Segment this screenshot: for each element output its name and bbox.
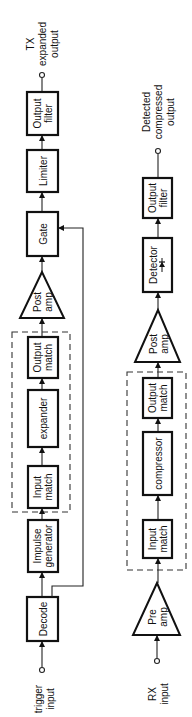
svg-text:Post: Post: [148, 334, 159, 354]
tx-limiter-block: Limiter: [27, 150, 58, 192]
rx-input-match-block: Input match: [143, 520, 172, 558]
svg-text:Output: Output: [32, 342, 43, 372]
svg-text:input: input: [45, 688, 56, 710]
rx-input-terminal: [155, 659, 160, 664]
svg-text:match: match: [43, 344, 54, 371]
tx-chain: TX expanded output Output filter Limiter: [12, 22, 83, 713]
rx-output-filter-block: Output filter: [143, 178, 172, 218]
svg-text:output: output: [49, 30, 60, 58]
svg-text:Pre: Pre: [147, 609, 158, 625]
svg-text:match: match: [158, 525, 169, 552]
svg-text:Detector: Detector: [148, 245, 159, 283]
rx-output-terminal: [156, 149, 161, 154]
svg-text:Input: Input: [32, 476, 43, 498]
rx-pre-amp-triangle: Pre amp: [133, 583, 180, 635]
rx-post-amp-triangle: Post amp: [135, 310, 180, 362]
rx-output-label: Detected compressed output: [141, 85, 176, 139]
rx-compressor-block: compressor: [143, 432, 172, 495]
tx-input-match-block: Input match: [28, 466, 58, 508]
svg-text:trigger: trigger: [33, 684, 44, 713]
trigger-input-terminal: [40, 668, 45, 673]
rx-chain: Detected compressed output Output filter…: [127, 85, 186, 705]
svg-text:compressed: compressed: [153, 85, 164, 139]
svg-text:match: match: [158, 384, 169, 411]
tx-expander-block: expander: [28, 390, 58, 447]
svg-text:amp: amp: [159, 334, 170, 354]
svg-text:expander: expander: [38, 397, 49, 439]
tx-output-filter-block: Output filter: [27, 92, 58, 135]
tx-output-terminal: [40, 73, 45, 78]
rx-detector-block: Detector: [143, 238, 172, 292]
svg-text:Decode: Decode: [38, 601, 49, 636]
svg-text:amp: amp: [158, 607, 169, 627]
trigger-input-label: trigger input: [33, 684, 56, 713]
svg-text:Gate: Gate: [38, 223, 49, 245]
svg-text:Output: Output: [147, 383, 158, 413]
svg-text:match: match: [43, 473, 54, 500]
tx-impulse-generator-block: Impulse generator: [28, 520, 58, 572]
svg-text:Output: Output: [32, 98, 43, 128]
tx-output-match-block: Output match: [28, 337, 58, 378]
svg-text:Output: Output: [147, 183, 158, 213]
tx-output-label: TX expanded output: [25, 22, 60, 66]
svg-text:TX: TX: [25, 37, 36, 50]
svg-text:Impulse: Impulse: [32, 528, 43, 563]
tx-post-amp-triangle: Post amp: [20, 272, 64, 318]
block-diagram: TX expanded output Output filter Limiter: [0, 0, 192, 717]
svg-text:output: output: [165, 98, 176, 126]
svg-text:Limiter: Limiter: [38, 155, 49, 186]
svg-text:compressor: compressor: [153, 437, 164, 490]
tx-gate-block: Gate: [27, 212, 58, 256]
svg-text:Input: Input: [147, 528, 158, 550]
svg-text:Detected: Detected: [141, 92, 152, 132]
svg-text:expanded: expanded: [37, 22, 48, 66]
rx-output-match-block: Output match: [143, 378, 172, 418]
svg-text:amp: amp: [43, 292, 54, 312]
svg-text:Post: Post: [32, 292, 43, 312]
svg-text:generator: generator: [43, 524, 54, 567]
svg-text:RX: RX: [147, 687, 158, 701]
svg-text:filter: filter: [158, 188, 169, 208]
svg-text:input: input: [159, 683, 170, 705]
tx-decode-block: Decode: [27, 597, 58, 641]
svg-text:filter: filter: [43, 103, 54, 123]
rx-input-label: RX input: [147, 683, 170, 705]
